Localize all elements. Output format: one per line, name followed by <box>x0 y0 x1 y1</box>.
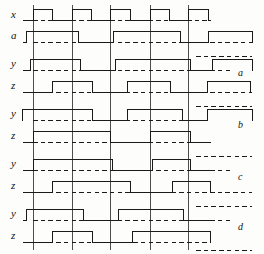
signal-label-left-4: y <box>11 108 16 119</box>
waveform-z_a <box>23 82 251 93</box>
waveform-y_a <box>23 60 253 71</box>
waveform-x <box>23 10 211 21</box>
waveform-canvas <box>0 0 264 254</box>
group-label-right-c: c <box>238 172 242 182</box>
signal-label-left-8: y <box>11 208 16 219</box>
waveform-a <box>23 32 253 43</box>
waveform-z_d <box>23 232 211 243</box>
signal-label-left-6: y <box>11 158 16 169</box>
waveform-y_d <box>23 210 211 221</box>
signal-label-left-1: a <box>11 30 17 41</box>
group-label-right-b: b <box>238 120 243 130</box>
group-label-right-a: a <box>238 68 243 78</box>
waveform-z_c <box>23 182 211 193</box>
waveform-y_c <box>23 160 211 171</box>
signal-label-left-0: x <box>11 9 16 20</box>
signal-label-left-2: y <box>11 58 16 69</box>
signal-label-left-3: z <box>11 80 15 91</box>
timing-diagram-figure: xayzyzyzyz abcd <box>0 0 264 254</box>
signal-label-left-9: z <box>11 230 15 241</box>
waveform-y_b <box>23 110 253 121</box>
group-label-right-d: d <box>238 222 243 232</box>
signal-label-left-5: z <box>11 130 15 141</box>
signal-label-left-7: z <box>11 180 15 191</box>
waveform-z_b <box>23 132 211 143</box>
